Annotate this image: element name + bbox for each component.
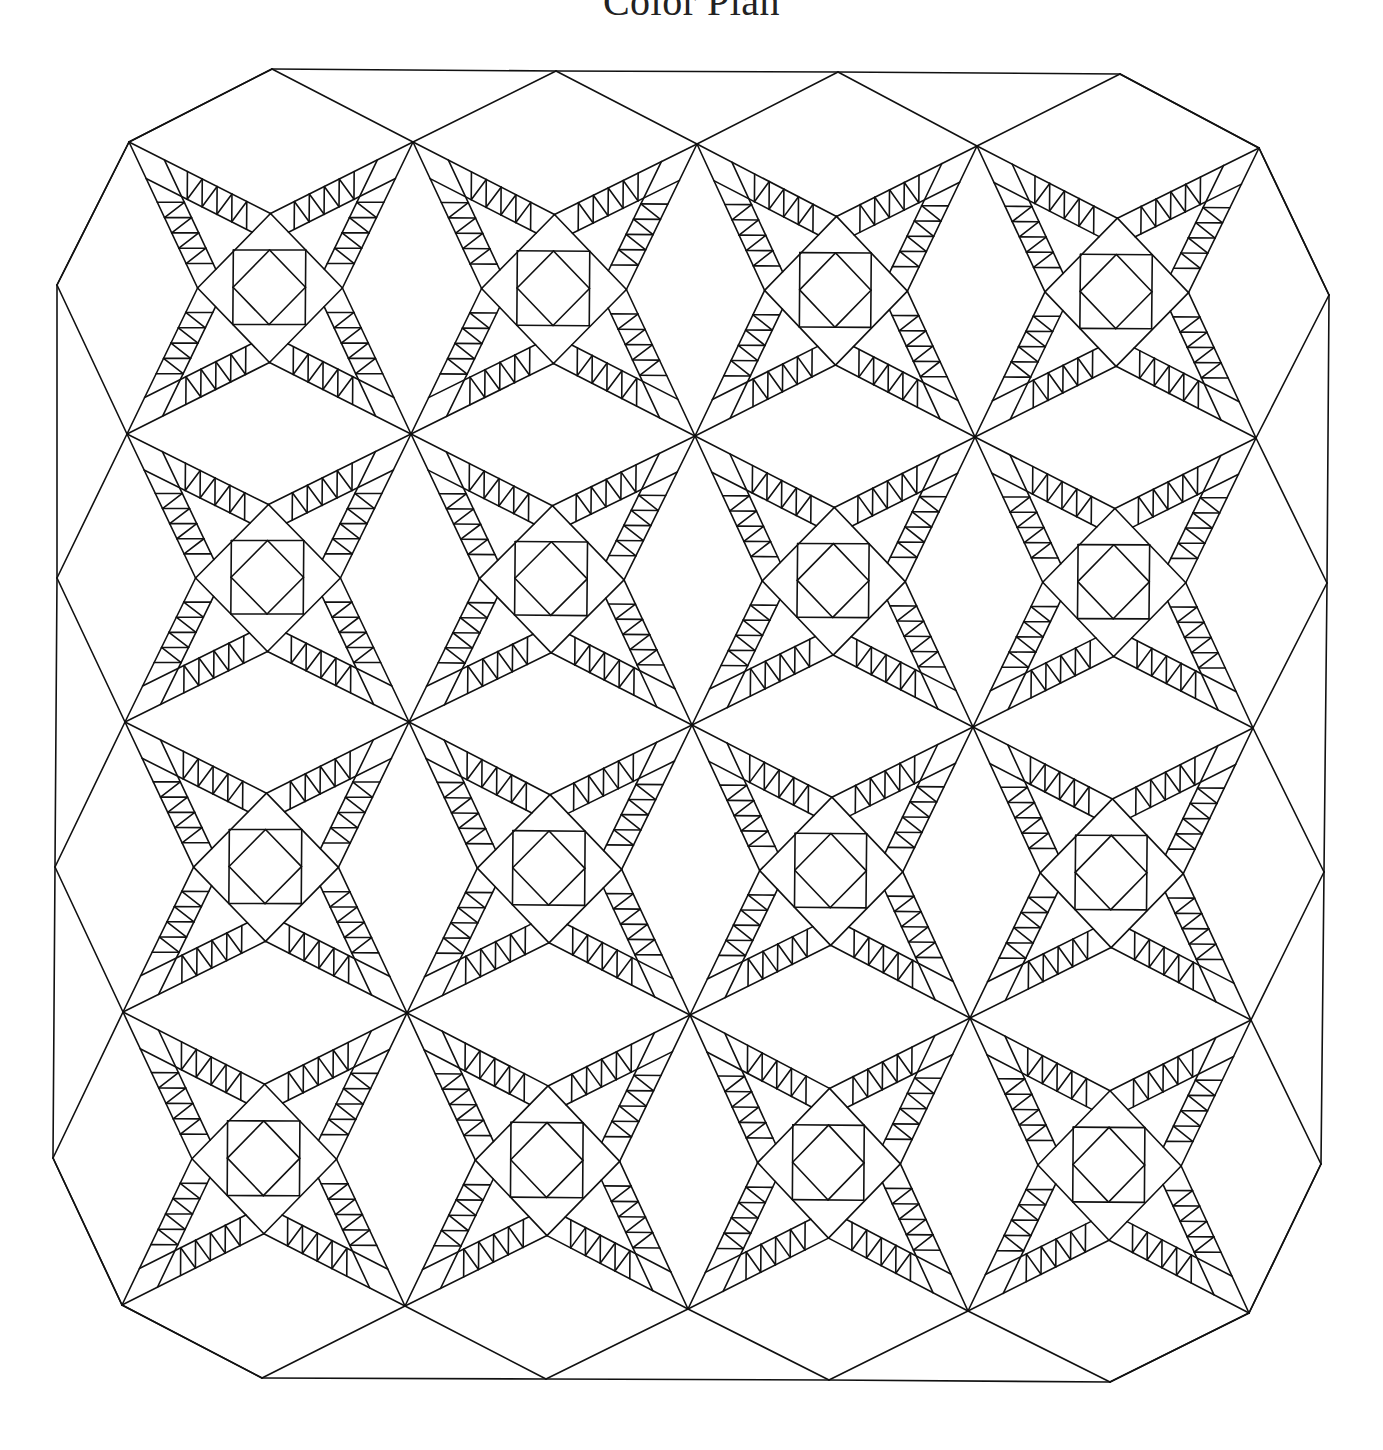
border-line: [57, 578, 125, 722]
border-line: [838, 72, 977, 146]
quilt-block-r2-c1: [125, 434, 411, 722]
quilt-block-r4-c3: [688, 1015, 970, 1311]
border-line: [55, 578, 57, 867]
border-line: [413, 71, 556, 142]
border-line: [272, 69, 413, 142]
border-line: [55, 867, 123, 1012]
border-line: [1324, 583, 1327, 872]
border-line: [57, 434, 127, 578]
border-line: [53, 1158, 122, 1305]
quilt-block-r3-c3: [690, 725, 973, 1018]
border-line: [1249, 1164, 1321, 1313]
border-line: [968, 1311, 1110, 1382]
border-line: [122, 1305, 262, 1378]
border-line: [262, 1378, 546, 1379]
border-line: [556, 71, 697, 144]
quilt-blocks: [122, 142, 1259, 1313]
border-line: [829, 1311, 968, 1380]
quilt-block-r1-c4: [975, 146, 1259, 438]
border-line: [688, 1309, 829, 1380]
border-line: [1256, 295, 1329, 438]
quilt-block-r4-c4: [968, 1018, 1251, 1313]
quilt-block-r4-c1: [122, 1012, 407, 1306]
border-line: [1259, 148, 1329, 295]
quilt-block-r2-c2: [409, 434, 695, 725]
border-line: [262, 1306, 405, 1378]
border-line: [405, 1306, 546, 1379]
border-line: [53, 867, 55, 1158]
quilt-block-r1-c2: [411, 142, 697, 436]
border-line: [697, 72, 838, 144]
border-line: [1120, 74, 1259, 148]
border-line: [1321, 872, 1324, 1164]
border-line: [1110, 1313, 1249, 1382]
quilt-block-r1-c3: [695, 144, 977, 437]
quilt-block-r4-c2: [405, 1013, 690, 1309]
border-line: [1256, 438, 1327, 583]
border-line: [1251, 872, 1324, 1020]
border-line: [1253, 583, 1327, 728]
border-line: [55, 722, 125, 867]
quilt-block-r2-c4: [973, 437, 1256, 728]
border-line: [1327, 295, 1329, 583]
border-line: [829, 1380, 1110, 1382]
quilt-block-r3-c2: [407, 722, 692, 1015]
quilt-diagram: [0, 0, 1383, 1450]
border-line: [272, 69, 556, 71]
border-line: [546, 1309, 688, 1379]
quilt-block-r3-c1: [123, 722, 409, 1013]
quilt-block-r2-c3: [692, 436, 975, 727]
border-line: [1251, 1020, 1321, 1164]
quilt-block-r1-c1: [127, 142, 413, 434]
border-line: [57, 285, 127, 434]
quilt-block-r3-c4: [970, 727, 1253, 1020]
border-line: [53, 1012, 123, 1158]
border-line: [1253, 728, 1324, 872]
border-line: [129, 69, 272, 142]
border-line: [546, 1379, 829, 1380]
border-line: [556, 71, 838, 72]
border-line: [57, 142, 129, 285]
border-line: [838, 72, 1120, 74]
border-line: [977, 74, 1120, 146]
